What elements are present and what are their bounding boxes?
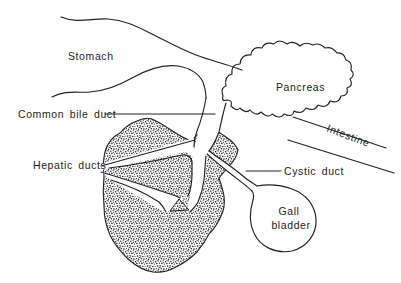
diagram-canvas: Stomach Pancreas Common bile duct Hepati… [0,0,401,283]
common-bile-duct-label: Common bile duct [18,108,116,120]
pancreas-label: Pancreas [276,81,325,93]
stomach-upper-outline [61,17,242,70]
hepatic-ducts-label: Hepatic ducts [33,159,106,171]
cystic-duct-label: Cystic duct [284,165,344,177]
stomach-lower-outline [52,66,206,98]
pancreas-outline [222,41,353,117]
gall-bladder-label-line2: bladder [271,219,310,231]
gall-bladder-label-line1: Gall [278,205,299,217]
biliary-system-diagram: Stomach Pancreas Common bile duct Hepati… [0,0,401,283]
intestine-label: Intestine [325,122,371,149]
stomach-label: Stomach [68,50,114,62]
